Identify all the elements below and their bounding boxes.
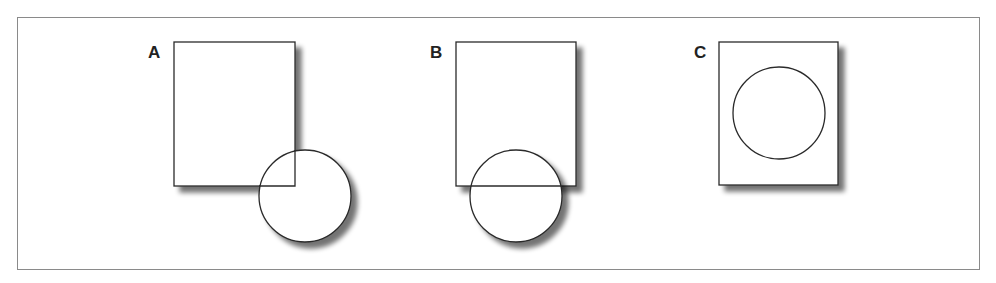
circle-b: [470, 150, 562, 242]
panel-c: C: [694, 42, 838, 185]
diagram-canvas: A B C: [0, 0, 996, 283]
panel-b: B: [430, 42, 576, 242]
circle-a: [259, 150, 351, 242]
panel-label-c: C: [694, 43, 706, 62]
panel-label-a: A: [148, 43, 160, 62]
panel-label-b: B: [430, 43, 442, 62]
circle-c: [733, 67, 825, 159]
panel-a: A: [148, 42, 351, 242]
